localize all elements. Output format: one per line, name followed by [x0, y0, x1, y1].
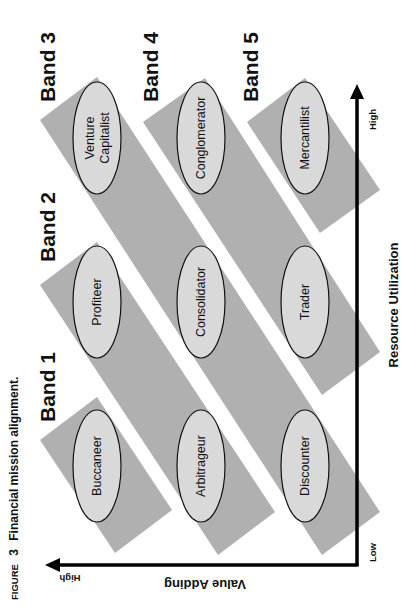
- node-label: Trader: [298, 284, 312, 320]
- node-label: Profiteer: [90, 278, 104, 325]
- band-label-1: Band 1: [36, 352, 59, 422]
- node-label: Buccaneer: [90, 436, 104, 496]
- y-axis-title: Value Adding: [164, 577, 246, 592]
- node-consolidator: Consolidator: [177, 246, 225, 358]
- node-conglomerator: Conglomerator: [177, 82, 225, 194]
- y-axis-high-label: High: [59, 573, 80, 584]
- x-axis-low-label: Low: [367, 542, 378, 562]
- node-buccaneer: Buccaneer: [73, 410, 121, 522]
- node-profiteer: Profiteer: [73, 246, 121, 358]
- band-label-3: Band 3: [36, 32, 59, 102]
- figure-prefix: FIGURE: [9, 564, 20, 600]
- node-arbitrageur: Arbitrageur: [177, 410, 225, 522]
- node-discounter: Discounter: [281, 410, 329, 522]
- figure-caption: FIGURE 3 Financial mission alignment.: [7, 377, 21, 600]
- svg-text:FIGURE 3 Financial: FIGURE 3 Financial mission alignment.: [7, 377, 21, 600]
- node-label: Capitalist: [98, 112, 112, 164]
- node-trader: Trader: [281, 246, 329, 358]
- figure-number: 3: [7, 549, 21, 556]
- node-venture-capitalist: Venture Capitalist: [73, 82, 121, 194]
- node-label: Consolidator: [194, 267, 208, 337]
- node-label: Venture: [83, 116, 97, 159]
- arrow-left-icon: [45, 558, 60, 572]
- node-label: Mercantilist: [298, 106, 312, 170]
- band-label-4: Band 4: [139, 32, 162, 102]
- figure-title: Financial mission alignment.: [7, 377, 21, 541]
- node-label: Arbitrageur: [194, 435, 208, 497]
- arrow-up-icon: [350, 84, 364, 99]
- financial-mission-alignment-diagram: Band 3 Band 2 Band 1 Band 4 Band 5 Ventu…: [0, 0, 413, 613]
- node-mercantilist: Mercantilist: [281, 82, 329, 194]
- band-label-5: Band 5: [239, 32, 262, 102]
- x-axis-title: Resource Utilization: [386, 242, 401, 367]
- axis-value-adding: [45, 558, 359, 572]
- node-label: Conglomerator: [194, 97, 208, 180]
- node-label: Discounter: [298, 436, 312, 496]
- band-label-2: Band 2: [36, 192, 59, 262]
- x-axis-high-label: High: [367, 109, 378, 130]
